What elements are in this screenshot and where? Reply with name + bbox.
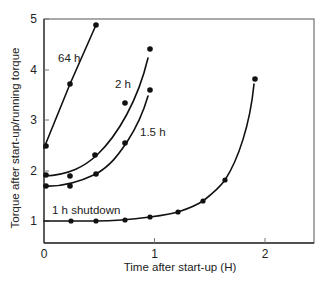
point-1-5h: [147, 87, 153, 93]
point-2h: [67, 173, 73, 179]
series-1h-shutdown-line: [44, 84, 254, 221]
y-tick-label-4: 4: [30, 63, 37, 77]
point-2h: [43, 172, 49, 178]
y-ticks: [44, 19, 49, 221]
point-64h: [43, 143, 49, 149]
point-1-5h: [43, 183, 49, 189]
point-1h-shutdown: [93, 218, 98, 223]
x-tick-label-1: 1: [151, 247, 158, 261]
x-ticks: [155, 238, 266, 243]
point-64h: [67, 81, 73, 87]
y-tick-label-3: 3: [30, 113, 37, 127]
series-label-64h: 64 h: [58, 52, 80, 64]
point-1h-shutdown: [122, 217, 127, 222]
point-2h: [147, 46, 153, 52]
y-tick-label-2: 2: [30, 164, 37, 178]
x-tick-label-2: 2: [262, 247, 269, 261]
point-1-5h: [93, 171, 99, 177]
series-label-1-5h: 1.5 h: [140, 126, 166, 138]
point-1h-shutdown: [222, 177, 227, 182]
series-2h-line: [44, 58, 148, 176]
point-1-5h: [122, 140, 128, 146]
x-tick-label-0: 0: [41, 247, 48, 261]
y-tick-label-5: 5: [30, 12, 37, 26]
point-1-5h: [67, 183, 73, 189]
torque-chart: 1 2 3 4 5 0 1 2 Time after start-up (H) …: [0, 0, 328, 286]
series-label-2h: 2 h: [115, 78, 131, 90]
x-axis-label: Time after start-up (H): [124, 261, 237, 273]
y-axis-label: Torque after start-up/running torque: [9, 48, 21, 229]
point-1h-shutdown: [68, 218, 73, 223]
point-64h: [93, 22, 99, 28]
point-2h: [92, 152, 98, 158]
point-1h-shutdown: [252, 76, 258, 82]
series-label-1h-shutdown: 1 h shutdown: [52, 204, 120, 216]
point-1h-shutdown: [147, 214, 152, 219]
point-2h: [122, 100, 128, 106]
point-1h-shutdown: [200, 198, 205, 203]
point-1h-shutdown: [175, 209, 180, 214]
y-tick-label-1: 1: [30, 214, 37, 228]
